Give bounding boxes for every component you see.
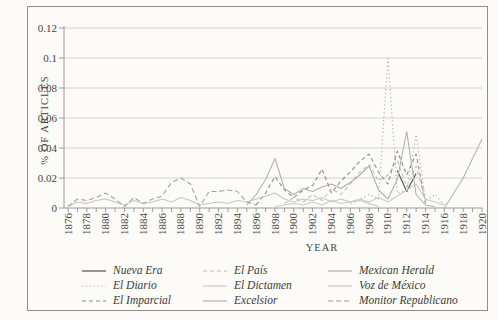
series-line-voz-de-mexico [68, 193, 379, 207]
x-tick-label: 1904 [325, 213, 337, 236]
legend-item-mexican-herald: Mexican Herald [328, 263, 482, 278]
x-tick-label: 1882 [118, 213, 130, 235]
x-tick-label: 1920 [476, 213, 488, 236]
legend-swatch-excelsior [203, 296, 227, 306]
series-line-el-pais [284, 160, 425, 204]
legend-swatch-mexican-herald [328, 266, 352, 276]
x-axis-title: YEAR [306, 242, 339, 253]
x-tick-label: 1894 [231, 213, 243, 236]
legend-label-excelsior: Excelsior [234, 294, 277, 307]
x-tick-label: 1890 [193, 213, 205, 236]
x-tick-label: 1896 [250, 213, 262, 236]
legend-item-nueva-era: Nueva Era [82, 263, 203, 278]
x-tick-label: 1914 [419, 213, 431, 236]
x-tick-label: 1902 [306, 213, 318, 235]
legend-label-mexican-herald: Mexican Herald [359, 264, 434, 277]
x-axis-ticks: 1876187818801882188418861888189018921894… [62, 208, 488, 235]
series-line-excelsior [444, 139, 482, 208]
x-tick-label: 1888 [174, 213, 186, 236]
legend-item-excelsior: Excelsior [203, 293, 328, 308]
x-tick-label: 1886 [156, 213, 168, 236]
legend-label-nueva-era: Nueva Era [113, 264, 163, 277]
x-tick-label: 1918 [457, 213, 469, 236]
x-tick-label: 1876 [62, 213, 74, 236]
y-tick-label: 0 [52, 202, 58, 214]
figure-page: 00.020.040.060.080.10.12 187618781880188… [0, 0, 498, 320]
x-tick-label: 1880 [99, 213, 111, 236]
legend-swatch-el-diario [82, 281, 106, 291]
x-tick-label: 1878 [80, 213, 92, 236]
legend-item-el-diario: El Diario [82, 278, 203, 293]
legend-item-el-pais: El País [203, 263, 328, 278]
x-tick-label: 1916 [438, 213, 450, 236]
legend-label-el-pais: El País [234, 264, 268, 277]
legend-swatch-voz-de-mexico [328, 281, 352, 291]
series-line-el-dictamen [275, 184, 444, 207]
chart-legend: Nueva EraEl DiarioEl ImparcialEl PaísEl … [82, 263, 482, 308]
legend-item-el-dictamen: El Dictamen [203, 278, 328, 293]
y-tick-label: 0.1 [43, 52, 57, 64]
legend-swatch-monitor-republicano [328, 296, 352, 306]
series-line-el-diario [350, 57, 444, 206]
legend-label-voz-de-mexico: Voz de México [359, 279, 425, 292]
legend-label-monitor-republicano: Monitor Republicano [359, 294, 458, 307]
x-tick-label: 1908 [363, 213, 375, 236]
series-line-mexican-herald [247, 132, 435, 207]
x-tick-label: 1884 [137, 213, 149, 236]
y-tick-label: 0.12 [38, 22, 57, 34]
legend-swatch-el-pais [203, 266, 227, 276]
legend-label-el-dictamen: El Dictamen [234, 279, 292, 292]
series-line-monitor-republicano [68, 178, 256, 207]
legend-label-el-imparcial: El Imparcial [113, 294, 171, 307]
legend-swatch-nueva-era [82, 266, 106, 276]
x-tick-label: 1900 [287, 213, 299, 236]
legend-item-monitor-republicano: Monitor Republicano [328, 293, 482, 308]
series-lines [68, 57, 482, 209]
legend-label-el-diario: El Diario [113, 279, 157, 292]
x-tick-label: 1898 [269, 213, 281, 236]
y-tick-label: 0.02 [38, 172, 57, 184]
legend-item-el-imparcial: El Imparcial [82, 293, 203, 308]
x-tick-label: 1906 [344, 213, 356, 236]
x-tick-label: 1892 [212, 213, 224, 235]
legend-item-voz-de-mexico: Voz de México [328, 278, 482, 293]
x-tick-label: 1912 [400, 213, 412, 235]
x-tick-label: 1910 [381, 213, 393, 236]
legend-swatch-el-imparcial [82, 296, 106, 306]
legend-swatch-el-dictamen [203, 281, 227, 291]
y-axis-title: % OF ARTICLES [39, 75, 50, 164]
